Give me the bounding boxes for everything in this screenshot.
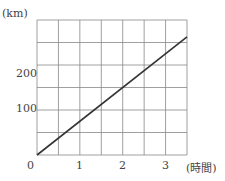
x-tick-1: 1 [76, 159, 83, 172]
y-tick-200: 200 [16, 67, 37, 80]
x-tick-3: 3 [162, 159, 169, 172]
x-tick-2: 2 [119, 159, 126, 172]
x-axis-label: (時間) [186, 159, 217, 175]
origin-label: 0 [27, 159, 34, 172]
y-axis-label: (km) [2, 7, 28, 20]
grid-lines [37, 20, 187, 155]
y-tick-100: 100 [16, 102, 37, 115]
data-line [37, 37, 187, 155]
chart-plot [0, 0, 225, 181]
